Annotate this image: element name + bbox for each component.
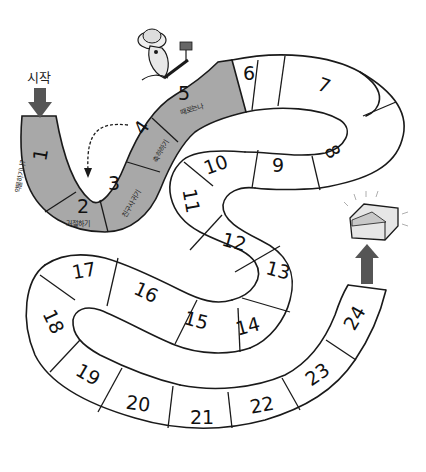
cell-20[interactable]: 20 (125, 391, 152, 416)
svg-text:13: 13 (264, 256, 293, 284)
svg-text:18: 18 (39, 306, 69, 337)
svg-text:15: 15 (182, 306, 211, 334)
svg-text:10: 10 (200, 150, 230, 179)
cell-6[interactable]: 6 (243, 62, 255, 84)
cell-11[interactable]: 11 (179, 187, 205, 215)
cell-24[interactable]: 24 (339, 302, 370, 334)
cell-19[interactable]: 19 (72, 359, 104, 390)
svg-text:11: 11 (179, 187, 205, 215)
svg-text:5: 5 (178, 82, 190, 104)
svg-text:22: 22 (248, 392, 276, 418)
game-board: 시작 (0, 0, 426, 472)
cell-21[interactable]: 21 (190, 406, 214, 428)
shortcut-arrow (84, 124, 128, 178)
down-arrow-icon (28, 88, 52, 118)
svg-text:2: 2 (77, 195, 89, 217)
treasure-chest-icon (344, 191, 408, 240)
svg-text:16: 16 (131, 277, 162, 307)
svg-text:20: 20 (125, 391, 152, 416)
svg-text:9: 9 (272, 154, 284, 176)
svg-text:21: 21 (190, 406, 214, 428)
start-label: 시작 (27, 70, 51, 85)
cell-13[interactable]: 13 (264, 256, 293, 284)
cell-23[interactable]: 23 (301, 358, 333, 390)
svg-text:17: 17 (70, 257, 98, 283)
flag-icon (180, 42, 192, 62)
cell-18[interactable]: 18 (39, 306, 69, 337)
svg-text:6: 6 (243, 62, 255, 84)
cell-9[interactable]: 9 (272, 154, 284, 176)
cell-12[interactable]: 12 (220, 228, 249, 256)
svg-text:14: 14 (233, 312, 262, 340)
cell-10[interactable]: 10 (200, 150, 230, 179)
cell-17[interactable]: 17 (70, 257, 98, 283)
svg-text:거절하기: 거절하기 (66, 219, 90, 228)
svg-text:24: 24 (339, 302, 370, 334)
svg-text:7: 7 (315, 73, 334, 98)
cell-7[interactable]: 7 (315, 73, 334, 98)
cell-8[interactable]: 8 (320, 141, 345, 162)
finish-marker (344, 191, 408, 284)
up-arrow-icon (355, 244, 379, 284)
svg-text:8: 8 (320, 141, 345, 162)
start-marker: 시작 (27, 70, 52, 118)
cell-22[interactable]: 22 (248, 392, 276, 418)
cell-15[interactable]: 15 (182, 306, 211, 334)
svg-text:12: 12 (220, 228, 249, 256)
svg-text:19: 19 (72, 359, 104, 390)
cell-16[interactable]: 16 (131, 277, 162, 307)
svg-text:23: 23 (301, 358, 333, 390)
cell-14[interactable]: 14 (233, 312, 262, 340)
svg-text:3: 3 (108, 172, 120, 194)
explorer-character-icon (138, 29, 192, 80)
